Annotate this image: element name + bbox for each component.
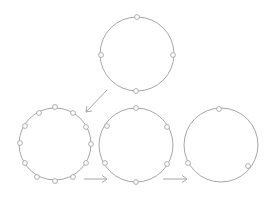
ring-node — [84, 125, 89, 130]
right-ring — [184, 107, 258, 182]
left-ring — [18, 105, 94, 184]
ring-node — [134, 106, 139, 111]
arrow-top-to-left — [86, 90, 107, 112]
ring-node — [135, 15, 140, 20]
ring-circle — [184, 108, 258, 182]
ring-circle — [100, 17, 174, 91]
ring-node — [71, 175, 76, 180]
ring-node — [134, 89, 139, 94]
ring-node — [53, 105, 58, 110]
ring-node — [134, 180, 139, 185]
ring-node — [165, 162, 170, 167]
ring-node — [53, 179, 58, 184]
ring-node — [37, 111, 42, 116]
ring-node — [71, 111, 76, 116]
middle-ring — [99, 106, 173, 185]
ring-node — [105, 124, 110, 129]
ring-node — [89, 142, 94, 147]
ring-node — [246, 164, 251, 169]
ring-circle — [99, 108, 173, 182]
ring-node — [186, 161, 191, 166]
ring-node — [18, 141, 23, 146]
ring-node — [171, 53, 176, 58]
ring-node — [103, 161, 108, 166]
ring-node — [35, 175, 40, 180]
arrow-shaft — [86, 90, 107, 112]
ring-node — [23, 161, 28, 166]
ring-reduction-diagram — [0, 0, 272, 203]
arrow-left-to-middle — [84, 175, 107, 182]
rings-layer — [18, 15, 258, 185]
ring-node — [165, 125, 170, 130]
top-ring — [99, 15, 176, 94]
ring-node — [99, 53, 104, 58]
ring-node — [217, 107, 222, 112]
arrow-middle-to-right — [163, 175, 187, 182]
ring-node — [84, 161, 89, 166]
ring-circle — [19, 108, 91, 180]
ring-node — [23, 124, 28, 129]
